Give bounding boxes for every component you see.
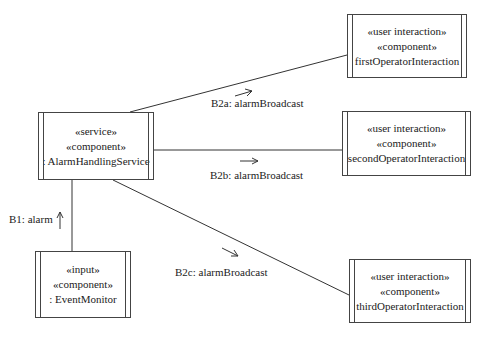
object-name: : EventMonitor [49, 292, 117, 307]
object-name: thirdOperatorInteraction [356, 299, 464, 314]
message-b1: B1: alarm [9, 213, 53, 225]
arrow-b2c-icon [222, 248, 238, 256]
object-first-operator-interaction[interactable]: «user interaction» «component» firstOper… [347, 14, 467, 78]
stereotype-component: «component» [380, 284, 440, 299]
stereotype-component: «component» [66, 139, 126, 154]
object-third-operator-interaction[interactable]: «user interaction» «component» thirdOper… [349, 259, 471, 323]
stereotype-input: «input» [66, 262, 100, 277]
message-b2b: B2b: alarmBroadcast [210, 169, 303, 181]
stereotype-user-interaction: «user interaction» [370, 269, 449, 284]
object-name: : AlarmHandlingService [42, 154, 149, 169]
object-second-operator-interaction[interactable]: «user interaction» «component» secondOpe… [342, 111, 471, 176]
stereotype-component: «component» [377, 39, 437, 54]
object-name: firstOperatorInteraction [355, 54, 459, 69]
message-b2a: B2a: alarmBroadcast [211, 97, 304, 109]
object-event-monitor[interactable]: «input» «component» : EventMonitor [35, 251, 131, 318]
arrow-b2b-icon [240, 158, 258, 164]
message-b2c: B2c: alarmBroadcast [175, 266, 268, 278]
stereotype-user-interaction: «user interaction» [367, 121, 446, 136]
object-alarm-handling-service[interactable]: «service» «component» : AlarmHandlingSer… [38, 112, 154, 180]
object-name: secondOperatorInteraction [348, 151, 465, 166]
arrow-b1-icon [57, 212, 63, 229]
stereotype-user-interaction: «user interaction» [367, 24, 446, 39]
stereotype-service: «service» [75, 124, 117, 139]
stereotype-component: «component» [53, 277, 113, 292]
stereotype-component: «component» [377, 136, 437, 151]
arrow-b2a-icon [235, 89, 252, 96]
